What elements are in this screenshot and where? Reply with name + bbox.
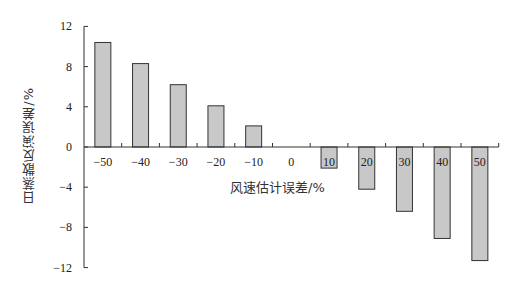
x-tick-label: −40 (131, 155, 150, 169)
x-tick-label: 40 (436, 155, 448, 169)
y-tick-label: 8 (66, 60, 72, 74)
y-tick-label: −8 (59, 220, 72, 234)
y-axis-label-container: 日蒸散反演误差/% (14, 60, 42, 230)
y-tick-label: −4 (59, 180, 72, 194)
x-tick-label: −10 (244, 155, 263, 169)
y-tick-label: 0 (66, 140, 72, 154)
x-tick-label: 20 (361, 155, 373, 169)
y-ticks-group: 12840−4−8−12 (53, 19, 88, 274)
x-tick-label: −30 (169, 155, 188, 169)
y-tick-label: 12 (60, 19, 72, 33)
y-tick-label: −12 (53, 261, 72, 275)
x-tick-label: 0 (288, 155, 294, 169)
bar-chart: 12840−4−8−12 −50−40−30−20−1001020304050 (0, 0, 520, 290)
x-tick-label: 10 (323, 155, 335, 169)
x-tick-label: −20 (207, 155, 226, 169)
x-tick-label: −50 (93, 155, 112, 169)
bar--30 (170, 85, 186, 147)
bar--50 (95, 42, 111, 147)
x-tick-label: 30 (398, 155, 410, 169)
x-axis-label: 风速估计误差/% (230, 177, 325, 196)
y-axis-label: 日蒸散反演误差/% (19, 87, 38, 204)
bar--10 (246, 126, 262, 147)
bars-group (95, 42, 488, 260)
x-tick-label: 50 (474, 155, 486, 169)
bar--20 (208, 106, 224, 147)
y-tick-label: 4 (66, 100, 72, 114)
bar--40 (133, 64, 149, 147)
